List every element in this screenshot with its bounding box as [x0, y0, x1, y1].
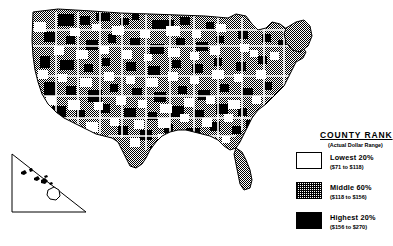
legend-range-middle: ($118 to $156)	[330, 193, 372, 202]
legend-item-lowest: Lowest 20% ($71 to $118)	[296, 152, 374, 172]
legend-range-highest: ($156 to $270)	[330, 223, 376, 232]
legend-item-middle: Middle 60% ($118 to $156)	[296, 182, 372, 202]
legend-swatch-black	[296, 212, 322, 229]
legend-item-highest: Highest 20% ($156 to $270)	[296, 212, 376, 232]
legend-swatch-checkered	[296, 182, 322, 199]
hawaii-inset-svg	[4, 150, 104, 220]
legend-label-highest: Highest 20%	[330, 213, 376, 222]
florida-peninsula	[234, 148, 252, 190]
legend-label-lowest: Lowest 20%	[330, 153, 374, 162]
legend-swatch-white	[296, 152, 322, 169]
legend-text-highest: Highest 20% ($156 to $270)	[330, 212, 376, 232]
legend-text-middle: Middle 60% ($118 to $156)	[330, 182, 372, 202]
legend-label-middle: Middle 60%	[330, 183, 372, 192]
legend-range-lowest: ($71 to $118)	[330, 163, 374, 172]
county-rank-choropleth-figure: COUNTY RANK (Actual Dollar Range) Lowest…	[0, 0, 393, 246]
map-legend: COUNTY RANK (Actual Dollar Range) Lowest…	[296, 130, 393, 242]
legend-text-lowest: Lowest 20% ($71 to $118)	[330, 152, 374, 172]
legend-subtitle: (Actual Dollar Range)	[328, 142, 393, 148]
legend-title: COUNTY RANK	[320, 130, 393, 140]
hawaiian-islands	[21, 168, 60, 200]
hawaii-inset	[4, 150, 104, 220]
